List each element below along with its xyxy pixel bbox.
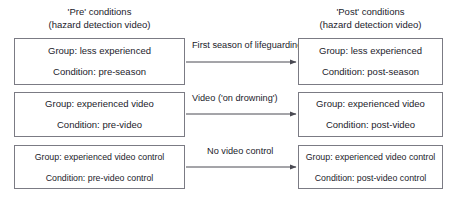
column-header-pre-line1: 'Pre' conditions [14,5,185,18]
column-header-post-line2: (hazard detection video) [298,18,443,31]
column-header-post-line1: 'Post' conditions [298,5,443,18]
node-group-label: Group: experienced video control [306,151,436,163]
node-group-label: Group: less experienced [48,45,151,57]
node-condition-label: Condition: post-video control [315,172,427,184]
column-header-pre: 'Pre' conditions (hazard detection video… [14,5,185,31]
node-group-label: Group: experienced video control [35,151,165,163]
node-condition-label: Condition: pre-season [53,66,146,78]
column-header-post: 'Post' conditions (hazard detection vide… [298,5,443,31]
node-post-less-experienced: Group: less experienced Condition: post-… [298,38,443,85]
node-condition-label: Condition: pre-video control [46,172,154,184]
node-condition-label: Condition: post-season [322,66,419,78]
node-condition-label: Condition: post-video [326,119,415,131]
edge-label-video: Video ('on drowning') [192,92,278,104]
node-pre-less-experienced: Group: less experienced Condition: pre-s… [14,38,185,85]
node-post-experienced-video: Group: experienced video Condition: post… [298,92,443,137]
edge-label-no-video-control: No video control [207,145,273,157]
node-post-experienced-video-control: Group: experienced video control Conditi… [298,145,443,189]
node-pre-experienced-video-control: Group: experienced video control Conditi… [14,145,185,189]
study-design-diagram: 'Pre' conditions (hazard detection video… [0,0,459,203]
column-header-pre-line2: (hazard detection video) [14,18,185,31]
node-group-label: Group: less experienced [319,45,422,57]
node-group-label: Group: experienced video [45,98,154,110]
node-pre-experienced-video: Group: experienced video Condition: pre-… [14,92,185,137]
node-group-label: Group: experienced video [316,98,425,110]
edge-label-first-season: First season of lifeguarding [192,39,302,51]
node-condition-label: Condition: pre-video [57,119,142,131]
